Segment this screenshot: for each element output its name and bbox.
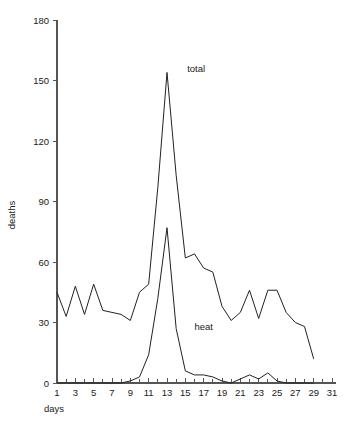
deaths-line-chart: 0306090120150180 13579111315171921232527…: [0, 0, 352, 425]
x-tick-label: 3: [73, 387, 78, 398]
x-tick-label: 19: [217, 387, 228, 398]
x-tick-label: 9: [128, 387, 133, 398]
y-axis-title: deaths: [6, 200, 17, 229]
data-series-group: [57, 72, 314, 383]
x-tick-label: 5: [91, 387, 96, 398]
y-tick-label: 60: [38, 257, 49, 268]
x-tick-label: 23: [253, 387, 264, 398]
y-tick-label: 90: [38, 196, 49, 207]
x-tick-label: 27: [290, 387, 301, 398]
x-axis: 135791113151719212325272931: [54, 378, 337, 398]
y-tick-label: 30: [38, 317, 49, 328]
y-tick-label: 150: [33, 75, 49, 86]
y-tick-label: 180: [33, 15, 49, 26]
x-axis-title: days: [44, 403, 64, 414]
chart-canvas: 0306090120150180 13579111315171921232527…: [0, 0, 352, 425]
x-tick-label: 25: [272, 387, 283, 398]
x-tick-label: 13: [162, 387, 173, 398]
x-tick-label: 29: [308, 387, 319, 398]
x-tick-label: 15: [180, 387, 191, 398]
series-line-total: [57, 72, 314, 358]
y-tick-label: 0: [44, 378, 49, 389]
x-tick-label: 11: [144, 387, 154, 398]
x-tick-label: 31: [327, 387, 338, 398]
y-tick-label: 120: [33, 136, 49, 147]
series-label-heat: heat: [195, 321, 214, 332]
y-axis: 0306090120150180: [33, 15, 57, 389]
x-tick-label: 17: [198, 387, 209, 398]
x-tick-label: 7: [109, 387, 114, 398]
series-label-total: total: [187, 63, 205, 74]
x-tick-label: 1: [54, 387, 59, 398]
series-annotations: totalheat: [187, 63, 213, 332]
x-tick-label: 21: [235, 387, 246, 398]
series-line-heat: [57, 228, 314, 383]
